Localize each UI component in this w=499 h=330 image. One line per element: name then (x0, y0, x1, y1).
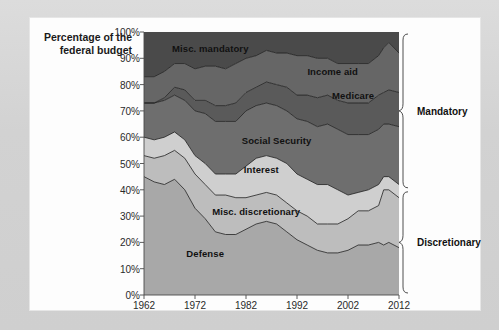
bracket-label: Discretionary (417, 237, 481, 248)
y-tick-label: 20% (106, 237, 140, 248)
y-tick-label: 60% (106, 132, 140, 143)
chart-brackets (399, 34, 408, 293)
x-tick-label: 2002 (337, 300, 359, 311)
y-tick-label: 90% (106, 53, 140, 64)
y-tick-label: 40% (106, 184, 140, 195)
y-tick-label: 10% (106, 263, 140, 274)
series-label: Interest (244, 163, 279, 174)
series-label: Income aid (307, 66, 358, 77)
x-tick-label: 1972 (184, 300, 206, 311)
series-label: Defense (186, 247, 224, 258)
bracket-label: Mandatory (417, 105, 468, 116)
bracket (399, 34, 408, 188)
bracket (399, 192, 408, 293)
series-label: Misc. mandatory (172, 42, 248, 53)
y-tick-label: 100% (106, 27, 140, 38)
series-label: Misc. discretionary (212, 205, 300, 216)
series-label: Social Security (242, 134, 312, 145)
x-tick-label: 1992 (286, 300, 308, 311)
y-tick-label: 30% (106, 211, 140, 222)
x-tick-label: 2012 (388, 300, 410, 311)
y-tick-label: 0% (106, 290, 140, 301)
x-tick-label: 1962 (133, 300, 155, 311)
y-tick-label: 80% (106, 79, 140, 90)
y-tick-label: 50% (106, 158, 140, 169)
x-tick-label: 1982 (235, 300, 257, 311)
series-label: Medicare (332, 90, 374, 101)
y-tick-label: 70% (106, 105, 140, 116)
y-tick-labels: 0%10%20%30%40%50%60%70%80%90%100% (100, 0, 140, 330)
